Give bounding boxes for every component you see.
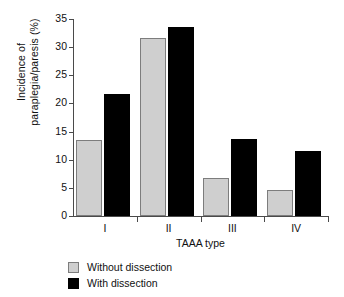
y-tick-mark [69,19,73,20]
y-axis-title-line-2: paraplegia/paresis (%) [28,18,41,125]
x-tick-mark [328,217,329,222]
legend-swatch-icon-gray [68,262,79,273]
x-tick-mark [201,217,202,222]
y-tick-label: 5 [61,181,67,194]
bar-II-with-dissection [168,27,194,216]
legend-item-with-dissection: With dissection [68,275,172,291]
y-tick-mark [69,47,73,48]
bar-IV-without-dissection [267,190,293,216]
x-tick-mark [264,217,265,222]
y-tick-label: 0 [61,209,67,222]
y-tick-label: 20 [55,96,67,109]
y-axis-title-line-1: Incidence of [15,43,28,101]
legend-swatch-icon-black [68,278,79,289]
plot-area: 05101520253035 IIIIIIIV [73,19,328,216]
x-category-label-I: I [103,222,106,235]
y-tick-mark [69,75,73,76]
y-axis-line [73,19,74,217]
bar-III-with-dissection [231,139,257,216]
bar-III-without-dissection [203,178,229,216]
legend-item-without-dissection: Without dissection [68,259,172,275]
x-tick-mark [137,217,138,222]
y-tick-mark [69,103,73,104]
y-tick-label: 10 [55,153,67,166]
bar-I-without-dissection [76,140,102,216]
bar-chart-figure: Incidence of paraplegia/paresis (%) 0510… [0,0,344,297]
y-tick-mark [69,188,73,189]
x-category-label-III: III [228,222,237,235]
y-tick-label: 25 [55,68,67,81]
y-tick-label: 35 [55,12,67,25]
y-tick-label: 15 [55,125,67,138]
x-axis-title: TAAA type [73,237,328,249]
legend-label-without-dissection: Without dissection [87,261,172,274]
y-axis-title: Incidence of paraplegia/paresis (%) [11,0,45,162]
x-category-label-IV: IV [291,222,301,235]
y-tick-mark [69,216,73,217]
y-tick-mark [69,160,73,161]
chart-legend: Without dissection With dissection [68,259,172,291]
legend-label-with-dissection: With dissection [87,277,158,290]
bar-II-without-dissection [140,38,166,216]
bar-IV-with-dissection [295,151,321,216]
y-tick-label: 30 [55,40,67,53]
y-tick-mark [69,132,73,133]
bar-I-with-dissection [104,94,130,216]
x-category-label-II: II [166,222,172,235]
